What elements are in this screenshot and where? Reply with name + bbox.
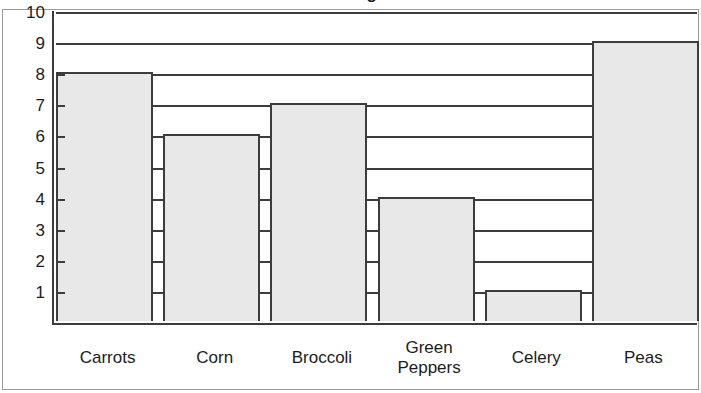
- plot-area: [52, 11, 697, 325]
- plot-block: 10987654321: [3, 10, 698, 326]
- y-axis-tick-label: 2: [36, 252, 45, 269]
- y-axis-tick-mark: [56, 230, 65, 232]
- x-axis-label-line: Carrots: [80, 348, 136, 368]
- y-axis-tick-mark: [56, 168, 65, 170]
- y-axis-tick-mark: [56, 261, 65, 263]
- x-axis-label-line: Broccoli: [292, 348, 352, 368]
- bar-celery: [485, 290, 582, 321]
- x-axis-label-celery: Celery: [483, 330, 590, 386]
- bars-layer: [56, 11, 697, 321]
- y-axis-tick-label: 4: [36, 190, 45, 207]
- chart-title-clipped: Favorite Vegetable: [0, 0, 701, 4]
- y-axis-tick-label: 6: [36, 128, 45, 145]
- bar-green-peppers: [378, 197, 475, 321]
- bar-broccoli: [270, 103, 367, 321]
- y-axis-tick-mark: [56, 12, 65, 14]
- x-axis-label-line: Peppers: [397, 358, 460, 378]
- bar-peas: [592, 41, 699, 321]
- y-axis-tick-mark: [56, 199, 65, 201]
- x-axis-label-corn: Corn: [161, 330, 268, 386]
- x-axis-label-carrots: Carrots: [54, 330, 161, 386]
- y-axis-tick-mark: [56, 74, 65, 76]
- x-axis-label-line: Green: [397, 338, 460, 358]
- x-axis-label-line: Celery: [512, 348, 561, 368]
- y-axis-tick-mark: [56, 105, 65, 107]
- y-axis-tick-label: 3: [36, 221, 45, 238]
- x-axis-labels: CarrotsCornBroccoliGreenPeppersCeleryPea…: [52, 330, 697, 386]
- y-axis-tick-mark: [56, 292, 65, 294]
- x-axis-label-line: Corn: [196, 348, 233, 368]
- bar-chart-figure: Favorite Vegetable 10987654321 CarrotsCo…: [0, 0, 701, 393]
- y-axis-tick-mark: [56, 136, 65, 138]
- y-axis-tick-label: 1: [36, 283, 45, 300]
- bar-corn: [163, 134, 260, 321]
- y-axis-tick-label: 9: [36, 35, 45, 52]
- x-axis-label-green-peppers: GreenPeppers: [376, 330, 483, 386]
- x-axis-label-line: Peas: [624, 348, 663, 368]
- y-axis-tick-label: 8: [36, 66, 45, 83]
- y-axis-tick-mark: [56, 43, 65, 45]
- bar-carrots: [56, 72, 153, 321]
- x-axis-label-broccoli: Broccoli: [268, 330, 375, 386]
- x-axis-label-peas: Peas: [590, 330, 697, 386]
- y-axis-tick-label: 7: [36, 97, 45, 114]
- y-axis-labels: 10987654321: [3, 10, 52, 326]
- y-axis-tick-label: 10: [26, 4, 45, 21]
- y-axis-tick-label: 5: [36, 159, 45, 176]
